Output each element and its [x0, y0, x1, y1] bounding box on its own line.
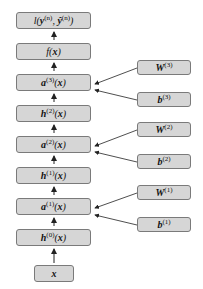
W3-node: W(3) — [137, 60, 191, 75]
b3-node: b(3) — [137, 92, 191, 107]
b1-node: b(1) — [137, 217, 191, 232]
output-f-node: f(x) — [16, 43, 91, 60]
b2-node: b(2) — [137, 154, 191, 169]
W1-node: W(1) — [137, 185, 191, 200]
a2-node: a(2)(x) — [16, 136, 91, 153]
h1-node: h(1)(x) — [16, 167, 91, 184]
loss-node: l(y(n), ŷ(n)) — [16, 12, 91, 29]
h0-node: h(0)(x) — [16, 229, 91, 246]
input-x-node: x — [34, 265, 74, 282]
a3-node: a(3)(x) — [16, 74, 91, 91]
W2-node: W(2) — [137, 122, 191, 137]
h2-node: h(2)(x) — [16, 105, 91, 122]
a1-node: a(1)(x) — [16, 198, 91, 215]
